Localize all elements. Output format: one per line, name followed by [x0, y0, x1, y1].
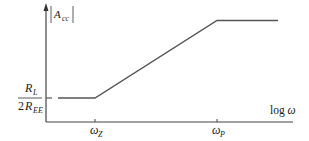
y-axis-label: A cc — [51, 6, 73, 23]
tick-label-omega-z: ω Z — [90, 123, 103, 139]
svg-text:Z: Z — [98, 130, 103, 139]
y-axis-arrow-icon — [44, 3, 49, 11]
svg-text:EE: EE — [32, 106, 43, 115]
svg-text:L: L — [32, 88, 38, 97]
svg-text:log ω: log ω — [270, 104, 296, 117]
svg-text:A: A — [53, 8, 61, 20]
bode-diagram: A cc R L 2 R EE ω Z ω P log ω — [0, 0, 309, 141]
svg-text:R: R — [24, 99, 33, 113]
svg-text:P: P — [219, 130, 225, 139]
low-level-label: R L 2 R EE — [18, 81, 43, 115]
x-axis-label: log ω — [270, 104, 296, 117]
svg-text:2: 2 — [18, 99, 24, 113]
magnitude-curve — [58, 21, 278, 99]
svg-text:R: R — [24, 81, 33, 95]
tick-label-omega-p: ω P — [212, 123, 225, 139]
svg-text:cc: cc — [62, 14, 70, 23]
